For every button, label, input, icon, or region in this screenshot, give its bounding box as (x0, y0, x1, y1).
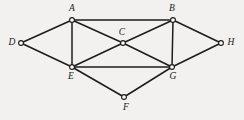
vertex-label-h: H (227, 37, 236, 47)
graph-vertex-a[interactable] (70, 18, 75, 23)
vertex-label-e: E (67, 71, 74, 81)
vertex-label-f: F (122, 102, 129, 112)
graph-vertex-g[interactable] (170, 65, 175, 70)
vertex-label-g: G (170, 71, 177, 81)
graph-vertex-f[interactable] (122, 95, 127, 100)
graph-vertex-d[interactable] (19, 41, 24, 46)
graph-edge-f-g (124, 67, 172, 97)
graph-edge-d-e (21, 43, 72, 67)
graph-edge-c-e (72, 43, 123, 67)
graph-vertex-c[interactable] (121, 41, 126, 46)
graph-edge-e-f (72, 67, 124, 97)
vertex-label-a: A (68, 3, 75, 13)
graph-vertex-h[interactable] (219, 41, 224, 46)
vertex-label-d: D (8, 37, 16, 47)
graph-edge-a-c (72, 20, 123, 43)
vertex-label-c: C (119, 27, 126, 37)
graph-edge-b-g (172, 20, 173, 67)
graph-edge-g-h (172, 43, 221, 67)
graph-diagram: ABCDEFGH (0, 0, 244, 120)
graph-edge-d-a (21, 20, 72, 43)
graph-vertex-e[interactable] (70, 65, 75, 70)
graph-edge-b-c (123, 20, 173, 43)
vertex-label-b: B (169, 3, 175, 13)
graph-edge-b-h (173, 20, 221, 43)
graph-vertex-b[interactable] (171, 18, 176, 23)
graph-canvas: ABCDEFGH (0, 0, 244, 120)
graph-edge-c-g (123, 43, 172, 67)
